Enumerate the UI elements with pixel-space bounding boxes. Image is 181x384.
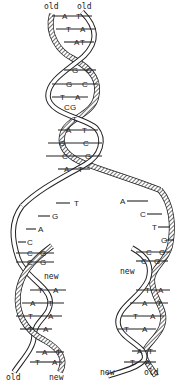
base: T	[72, 115, 77, 124]
base: A	[42, 348, 48, 357]
label-old-bottom-left: old	[6, 373, 21, 382]
base: T	[28, 325, 33, 334]
base: A	[142, 299, 148, 308]
base: T	[76, 12, 81, 21]
base: A	[142, 325, 148, 334]
base: G	[70, 103, 76, 112]
base: A	[75, 93, 81, 102]
label-new-fork-left: new	[44, 272, 59, 281]
base: A	[48, 312, 54, 321]
dna-replication-diagram: old old A T T A A T G C G C T A C G T A …	[0, 0, 181, 384]
base: A	[80, 25, 86, 34]
base: C	[83, 139, 89, 148]
base: G	[40, 249, 46, 258]
parent-strand-left	[51, 14, 160, 190]
base: C	[27, 238, 33, 247]
base: C	[27, 249, 33, 258]
base: C	[146, 248, 152, 257]
base: G	[159, 248, 165, 257]
base: T	[130, 358, 135, 367]
base: T	[48, 299, 53, 308]
base: A	[158, 286, 164, 295]
base: G	[40, 258, 46, 267]
base: T	[145, 286, 150, 295]
base: T	[152, 223, 157, 232]
base: T	[28, 312, 33, 321]
left-fork-bases: T G A C C G C G	[16, 199, 79, 267]
label-new-bottom-right: new	[100, 368, 115, 377]
base: C	[27, 258, 33, 267]
base: C	[140, 210, 146, 219]
label-old-top-right: old	[77, 2, 92, 11]
base: T	[66, 25, 71, 34]
base: G	[72, 66, 78, 75]
base: T	[80, 38, 85, 47]
base: G	[66, 80, 72, 89]
base: A	[145, 358, 151, 367]
base: A	[43, 325, 49, 334]
base: T	[148, 347, 153, 356]
base: T	[74, 199, 79, 208]
base: C	[86, 66, 92, 75]
base: A	[30, 299, 36, 308]
base: G	[154, 257, 160, 266]
label-new-bottom-left: new	[49, 373, 64, 382]
base: T	[56, 348, 61, 357]
base: T	[38, 286, 43, 295]
base: T	[157, 299, 162, 308]
base: A	[137, 347, 143, 356]
base: T	[78, 165, 83, 174]
label-old-top-left: old	[44, 2, 59, 11]
base: T	[124, 325, 129, 334]
base: A	[38, 225, 44, 234]
base: A	[66, 126, 72, 135]
base: A	[52, 358, 58, 367]
base: C	[141, 257, 147, 266]
base: A	[53, 286, 59, 295]
label-new-fork-right: new	[120, 267, 135, 276]
base: T	[60, 93, 65, 102]
base: A	[62, 12, 68, 21]
base: G	[52, 212, 58, 221]
label-old-bottom-right: old	[144, 368, 159, 377]
base: A	[150, 312, 156, 321]
base: G	[59, 139, 65, 148]
base: T	[35, 358, 40, 367]
base: T	[133, 312, 138, 321]
base: A	[120, 197, 126, 206]
base: C	[82, 80, 88, 89]
base: C	[62, 152, 68, 161]
base: G	[85, 152, 91, 161]
base: T	[82, 126, 87, 135]
base: A	[64, 165, 70, 174]
